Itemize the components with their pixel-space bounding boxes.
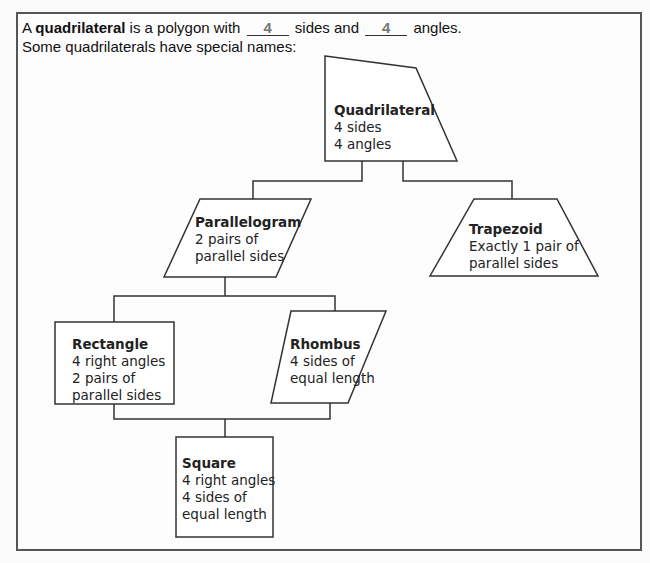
node-square: Square 4 right angles 4 sides of equal l… [182, 455, 275, 523]
node-line: 4 right angles [182, 472, 275, 489]
node-line: 4 sides of [290, 353, 375, 370]
node-rectangle: Rectangle 4 right angles 2 pairs of para… [72, 336, 165, 404]
node-title: Square [182, 455, 275, 472]
node-line: parallel sides [72, 387, 165, 404]
node-trapezoid: Trapezoid Exactly 1 pair of parallel sid… [469, 221, 579, 272]
node-line: 2 pairs of [72, 370, 165, 387]
node-rhombus: Rhombus 4 sides of equal length [290, 336, 375, 387]
node-title: Quadrilateral [334, 102, 435, 119]
node-line: 4 right angles [72, 353, 165, 370]
node-line: 4 angles [334, 136, 435, 153]
node-line: parallel sides [195, 248, 301, 265]
node-title: Rhombus [290, 336, 375, 353]
node-parallelogram: Parallelogram 2 pairs of parallel sides [195, 214, 301, 265]
node-line: equal length [182, 506, 275, 523]
node-line: 4 sides [334, 119, 435, 136]
node-line: 2 pairs of [195, 231, 301, 248]
node-line: Exactly 1 pair of [469, 238, 579, 255]
node-line: 4 sides of [182, 489, 275, 506]
node-title: Trapezoid [469, 221, 579, 238]
node-line: parallel sides [469, 255, 579, 272]
node-quadrilateral: Quadrilateral 4 sides 4 angles [334, 102, 435, 153]
node-line: equal length [290, 370, 375, 387]
node-title: Rectangle [72, 336, 165, 353]
node-title: Parallelogram [195, 214, 301, 231]
hierarchy-diagram [0, 0, 650, 563]
